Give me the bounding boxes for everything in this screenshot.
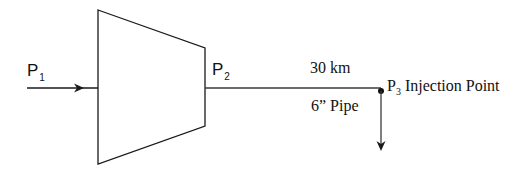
p1-subscript: 1 [39,72,45,83]
compressor-shape [98,10,205,164]
outlet-pressure-label: P2 [212,61,230,78]
p2-main: P [212,60,223,79]
pipe-size-label: 6” Pipe [311,98,359,114]
pipe-length-label: 30 km [310,60,350,76]
p3-subscript: 3 [396,86,401,97]
diagram-canvas: P1 P2 30 km 6” Pipe P3 Injection Point [0,0,511,178]
p1-main: P [27,61,38,80]
inlet-pressure-label: P1 [27,62,45,79]
injection-point-text: Injection Point [405,77,500,94]
p3-main: P [387,77,396,94]
p2-subscript: 2 [224,71,230,82]
injection-point-label: P3 Injection Point [387,78,500,94]
